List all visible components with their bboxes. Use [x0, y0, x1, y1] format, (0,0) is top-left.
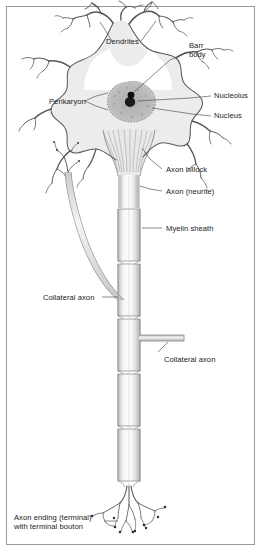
label-nucleus: Nucleus	[214, 111, 242, 120]
collateral-axon-right	[139, 335, 184, 341]
collateral-axon-left	[53, 141, 124, 300]
label-dendrites: Dendrites	[106, 37, 139, 46]
label-nucleolus: Nucleolus	[214, 91, 248, 100]
neuron-diagram-figure: Dendrites Barr body Perikaryon Nucleolus…	[0, 0, 263, 556]
label-axon-ending-line1: Axon ending (terminal)	[14, 513, 92, 522]
nucleolus-shape	[125, 97, 135, 107]
label-collateral-axon-right: Collateral axon	[164, 355, 215, 364]
axon-shape	[118, 175, 140, 487]
label-barr-body: Barr body	[189, 41, 229, 59]
label-axon-neurite: Axon (neurite)	[166, 187, 214, 196]
label-axon-hillock: Axon hillock	[166, 165, 207, 174]
barr-body-shape	[128, 92, 135, 98]
label-axon-ending: Axon ending (terminal) with terminal bou…	[14, 513, 109, 531]
label-myelin-sheath: Myelin sheath	[166, 224, 214, 233]
label-collateral-axon-left: Collateral axon	[43, 293, 94, 302]
label-barr-body-line1: Barr	[189, 41, 204, 50]
label-axon-ending-line2: with terminal bouton	[14, 522, 83, 531]
label-perikaryon: Perikaryon	[49, 97, 86, 106]
label-barr-body-line2: body	[189, 50, 206, 59]
neuron-illustration	[0, 0, 263, 556]
